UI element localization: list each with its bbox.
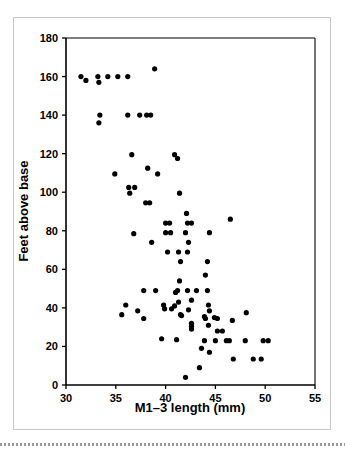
x-tick-label: 30 bbox=[60, 392, 72, 404]
data-point bbox=[125, 74, 130, 79]
data-point bbox=[141, 288, 146, 293]
data-point bbox=[153, 288, 158, 293]
data-point bbox=[197, 365, 202, 370]
y-tick-label: 140 bbox=[40, 109, 58, 121]
data-point bbox=[96, 120, 101, 125]
y-axis-tick-labels: 020406080100120140160180 bbox=[40, 32, 58, 391]
data-point bbox=[126, 185, 131, 190]
y-axis-title: Feet above base bbox=[16, 160, 31, 261]
data-point bbox=[137, 113, 142, 118]
data-point bbox=[141, 316, 146, 321]
data-point bbox=[105, 74, 110, 79]
data-point bbox=[127, 191, 132, 196]
data-point bbox=[206, 302, 211, 307]
data-point bbox=[185, 249, 190, 254]
data-point bbox=[167, 220, 172, 225]
data-point bbox=[215, 316, 220, 321]
data-point bbox=[231, 356, 236, 361]
x-axis-title: M1–3 length (mm) bbox=[135, 400, 246, 415]
data-point bbox=[125, 113, 130, 118]
data-point bbox=[207, 308, 212, 313]
data-point bbox=[178, 259, 183, 264]
data-point bbox=[119, 312, 124, 317]
y-tick-label: 40 bbox=[46, 302, 58, 314]
data-point bbox=[185, 288, 190, 293]
data-point bbox=[149, 240, 154, 245]
data-point bbox=[174, 337, 179, 342]
data-point bbox=[266, 338, 271, 343]
data-point bbox=[177, 278, 182, 283]
data-point bbox=[189, 220, 194, 225]
data-point bbox=[123, 302, 128, 307]
data-point bbox=[179, 313, 184, 318]
y-tick-label: 160 bbox=[40, 71, 58, 83]
data-point bbox=[131, 231, 136, 236]
y-tick-label: 100 bbox=[40, 186, 58, 198]
y-tick-label: 60 bbox=[46, 263, 58, 275]
data-point bbox=[168, 230, 173, 235]
data-point bbox=[132, 185, 137, 190]
data-point bbox=[183, 375, 188, 380]
data-point bbox=[186, 240, 191, 245]
data-point bbox=[228, 217, 233, 222]
data-point bbox=[112, 171, 117, 176]
data-point bbox=[199, 346, 204, 351]
data-point bbox=[243, 338, 248, 343]
chart-root: 020406080100120140160180 303540455055 M1… bbox=[0, 0, 345, 450]
data-point bbox=[189, 326, 194, 331]
data-point bbox=[220, 328, 225, 333]
x-tick-label: 55 bbox=[309, 392, 321, 404]
scatter-plot-canvas: 020406080100120140160180 303540455055 M1… bbox=[0, 0, 345, 450]
y-tick-label: 120 bbox=[40, 148, 58, 160]
data-point bbox=[169, 306, 174, 311]
data-point bbox=[162, 306, 167, 311]
bottom-dotted-rule bbox=[0, 443, 345, 446]
data-point bbox=[207, 350, 212, 355]
data-point bbox=[203, 273, 208, 278]
data-point bbox=[213, 338, 218, 343]
data-point bbox=[206, 323, 211, 328]
data-point bbox=[205, 259, 210, 264]
data-point bbox=[194, 288, 199, 293]
data-point bbox=[145, 166, 150, 171]
data-point bbox=[96, 80, 101, 85]
data-point bbox=[155, 171, 160, 176]
data-point bbox=[203, 316, 208, 321]
data-point bbox=[165, 249, 170, 254]
data-point bbox=[148, 113, 153, 118]
data-point bbox=[173, 290, 178, 295]
data-point bbox=[205, 288, 210, 293]
y-tick-label: 180 bbox=[40, 32, 58, 44]
x-tick-label: 35 bbox=[110, 392, 122, 404]
data-point bbox=[163, 230, 168, 235]
data-point bbox=[207, 230, 212, 235]
data-point bbox=[115, 74, 120, 79]
data-point bbox=[244, 310, 249, 315]
data-point bbox=[176, 249, 181, 254]
data-point bbox=[186, 307, 191, 312]
data-point bbox=[176, 300, 181, 305]
y-tick-label: 20 bbox=[46, 340, 58, 352]
data-point bbox=[251, 356, 256, 361]
data-point bbox=[227, 338, 232, 343]
data-point bbox=[261, 338, 266, 343]
data-point bbox=[184, 211, 189, 216]
data-point bbox=[129, 152, 134, 157]
data-point bbox=[259, 356, 264, 361]
data-point bbox=[202, 338, 207, 343]
y-tick-label: 80 bbox=[46, 225, 58, 237]
data-point bbox=[95, 74, 100, 79]
data-point bbox=[175, 156, 180, 161]
data-point bbox=[83, 78, 88, 83]
data-point bbox=[152, 66, 157, 71]
y-tick-label: 0 bbox=[52, 379, 58, 391]
data-point bbox=[215, 328, 220, 333]
data-point bbox=[177, 191, 182, 196]
data-point bbox=[147, 200, 152, 205]
data-point bbox=[183, 230, 188, 235]
data-point bbox=[97, 113, 102, 118]
data-point bbox=[230, 318, 235, 323]
x-tick-label: 50 bbox=[259, 392, 271, 404]
data-point bbox=[189, 298, 194, 303]
data-point bbox=[78, 74, 83, 79]
